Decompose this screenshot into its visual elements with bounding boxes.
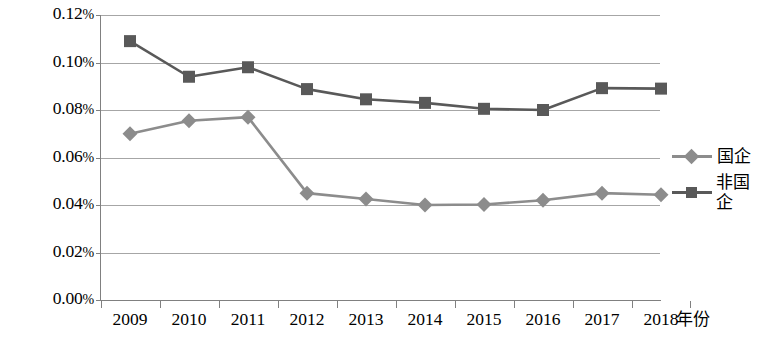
chart-container: 0.12%0.10%0.08%0.06%0.04%0.02%0.00% 2009… [0,0,766,337]
series-line-非国企 [130,41,661,110]
diamond-marker-icon [672,149,712,163]
y-axis-tick-label: 0.06% [0,148,94,167]
x-axis-title: 年份 [676,309,710,329]
data-point-marker [536,193,551,208]
data-point-marker [477,197,492,212]
x-axis-tick [337,301,338,308]
data-point-marker [359,192,374,207]
data-point-marker [655,83,667,95]
x-axis-tick [396,301,397,308]
data-point-marker [183,71,195,83]
y-axis-tick-label: 0.08% [0,100,94,119]
data-point-marker [360,93,372,105]
legend-label: 国企 [717,146,751,166]
x-axis-tick [573,301,574,308]
x-axis-tick [101,301,102,308]
data-point-marker [654,187,669,202]
x-axis-tick [455,301,456,308]
legend-item-国企[interactable]: 国企 [672,138,766,174]
data-point-marker [478,103,490,115]
y-axis-tick-label: 0.00% [0,290,94,309]
data-point-marker [301,83,313,95]
y-axis-tick-label: 0.04% [0,195,94,214]
series-lines [101,15,660,300]
plot-area [101,15,660,300]
data-point-marker [537,104,549,116]
chart-legend: 国企非国企 [672,138,766,210]
legend-label: 非国企 [716,172,766,212]
data-point-marker [596,82,608,94]
data-point-marker [123,126,138,141]
x-axis-tick [690,301,691,308]
data-point-marker [182,113,197,128]
data-point-marker [418,198,433,213]
data-point-marker [242,61,254,73]
x-axis-tick [160,301,161,308]
y-axis-tick-label: 0.10% [0,53,94,72]
data-point-marker [595,186,610,201]
series-line-国企 [130,117,661,205]
x-axis-line [100,300,661,301]
x-axis-tick [219,301,220,308]
legend-item-非国企[interactable]: 非国企 [672,174,766,210]
data-point-marker [419,97,431,109]
square-marker-icon [672,185,711,199]
x-axis-tick [278,301,279,308]
y-axis-tick-label: 0.02% [0,243,94,262]
x-axis-tick [514,301,515,308]
data-point-marker [124,35,136,47]
y-axis-tick-label: 0.12% [0,5,94,24]
x-axis-tick [632,301,633,308]
